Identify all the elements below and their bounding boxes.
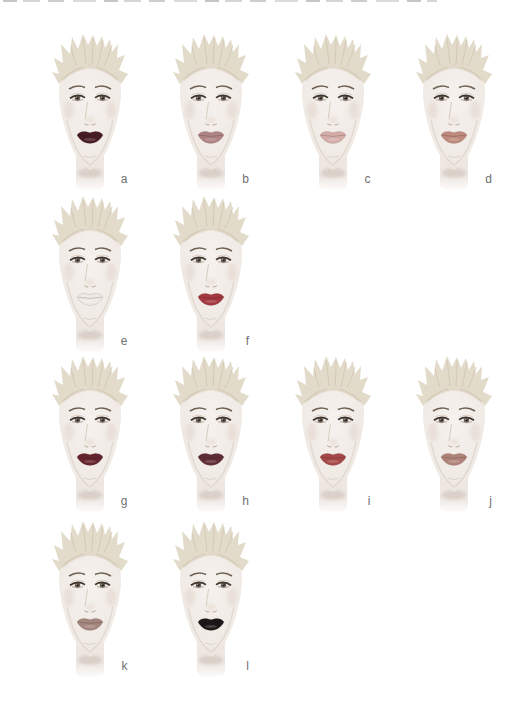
face-label: b (242, 173, 249, 185)
face-illustration (283, 354, 383, 514)
face-figure: d (394, 32, 512, 192)
face-figure: i (272, 354, 394, 514)
face-label: k (122, 660, 128, 672)
face-illustration (40, 32, 140, 192)
figure-row: e f (29, 194, 272, 354)
face-figure: j (394, 354, 512, 514)
figure-grid: a b c d e f g h i j k (0, 0, 512, 702)
face-label: j (489, 495, 492, 507)
face-figure: b (151, 32, 273, 192)
face-label: g (121, 495, 128, 507)
face-illustration (40, 194, 140, 354)
face-figure: h (151, 354, 273, 514)
face-figure: e (29, 194, 151, 354)
face-figure: c (272, 32, 394, 192)
face-label: d (485, 173, 492, 185)
face-figure: a (29, 32, 151, 192)
face-figure: g (29, 354, 151, 514)
face-label: f (246, 335, 249, 347)
face-illustration (283, 32, 383, 192)
figure-row: k l (29, 519, 272, 679)
face-label: c (365, 173, 371, 185)
face-illustration (40, 354, 140, 514)
face-illustration (161, 519, 261, 679)
face-label: h (242, 495, 249, 507)
face-illustration (161, 354, 261, 514)
face-label: l (246, 660, 249, 672)
figure-row: g h i j (29, 354, 512, 514)
face-figure: f (151, 194, 273, 354)
face-label: e (121, 335, 128, 347)
face-illustration (404, 354, 504, 514)
face-illustration (161, 32, 261, 192)
face-illustration (40, 519, 140, 679)
face-illustration (161, 194, 261, 354)
figure-row: a b c d (29, 32, 512, 192)
face-label: i (368, 495, 371, 507)
face-figure: k (29, 519, 151, 679)
face-label: a (121, 173, 128, 185)
face-figure: l (151, 519, 273, 679)
face-illustration (404, 32, 504, 192)
